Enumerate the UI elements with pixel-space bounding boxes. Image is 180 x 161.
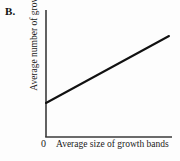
origin-tick-label: 0: [41, 139, 46, 149]
figure-panel-b: B. Average number of growth bands 0 Aver…: [0, 0, 180, 161]
x-axis-label: Average size of growth bands: [56, 140, 169, 150]
trend-line: [46, 36, 169, 103]
plot-area: [0, 0, 180, 161]
y-axis-label: Average number of growth bands: [30, 0, 40, 91]
